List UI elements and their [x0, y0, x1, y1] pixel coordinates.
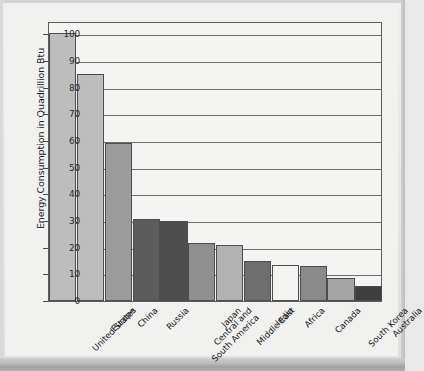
plot-area — [48, 22, 382, 302]
bar — [160, 221, 187, 301]
figure-card: Energy Consumption Per Year Energy Consu… — [5, 5, 398, 356]
y-tick-label: 40 — [54, 190, 80, 199]
x-tick-label: Russia — [165, 306, 191, 332]
y-tick-mark — [43, 301, 48, 302]
y-tick-label: 90 — [54, 57, 80, 66]
bar — [355, 286, 382, 301]
y-tick-label: 0 — [54, 297, 80, 306]
y-tick-label: 10 — [54, 270, 80, 279]
x-tick-label: China — [136, 306, 160, 330]
y-tick-mark — [43, 114, 48, 115]
page-edge-left — [0, 0, 3, 371]
page-edge-bottom — [0, 358, 405, 371]
y-tick-mark — [43, 274, 48, 275]
y-tick-label: 50 — [54, 164, 80, 173]
bar — [244, 261, 271, 301]
bar — [133, 219, 160, 301]
bar-chart-figure: Energy Consumption Per Year Energy Consu… — [5, 5, 398, 356]
y-axis-label: Energy Consumption in Quadrillion Btu — [35, 14, 46, 264]
y-tick-label: 80 — [54, 84, 80, 93]
y-tick-mark — [43, 88, 48, 89]
bar — [77, 74, 104, 301]
x-tick-label: Africa — [303, 306, 327, 330]
y-tick-label: 20 — [54, 244, 80, 253]
y-tick-mark — [43, 141, 48, 142]
bar — [300, 266, 327, 301]
y-tick-mark — [43, 61, 48, 62]
bar — [105, 143, 132, 301]
page-edge-top — [0, 0, 405, 3]
bar — [216, 245, 243, 301]
x-tick-label: Canada — [334, 306, 364, 336]
bar — [327, 278, 354, 301]
y-tick-label: 60 — [54, 137, 80, 146]
x-tick-label: Europe — [110, 306, 138, 334]
y-tick-mark — [43, 248, 48, 249]
y-tick-label: 30 — [54, 217, 80, 226]
y-tick-mark — [43, 34, 48, 35]
y-tick-mark — [43, 221, 48, 222]
y-tick-label: 100 — [54, 30, 80, 39]
y-tick-mark — [43, 194, 48, 195]
y-tick-mark — [43, 168, 48, 169]
bar-series — [49, 23, 381, 301]
bar — [188, 243, 215, 301]
bar — [272, 265, 299, 301]
y-tick-label: 70 — [54, 110, 80, 119]
